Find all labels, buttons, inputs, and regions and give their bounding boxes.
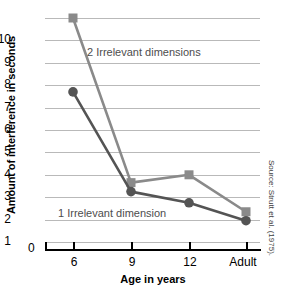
interference-line-chart: Amount of interference in seconds 1 2 3 …: [0, 0, 286, 295]
x-axis-title: Age in years: [45, 273, 261, 285]
gridline-10: [45, 18, 260, 19]
series-label-one-irrelevant-dimension: 1 Irrelevant dimension: [58, 207, 166, 219]
x-tick-label-3: Adult: [229, 255, 256, 269]
y-tick-label-6: 6: [0, 122, 11, 136]
gridline-5: [45, 130, 260, 131]
source-credit-text: Source: Strutt et al. (1975).: [267, 160, 276, 256]
x-tick-label-0: 6: [71, 255, 78, 269]
y-tick-label-2: 2: [0, 212, 11, 226]
y-tick-label-1: 1: [0, 234, 11, 248]
gridline-6: [45, 108, 260, 109]
y-tick-label-9: 9: [0, 55, 11, 69]
gridline-2: [45, 197, 260, 198]
gridline-8: [45, 63, 260, 64]
gridline-7: [45, 85, 260, 86]
x-tick-3: [246, 242, 248, 251]
y-tick-label-0: 0: [28, 241, 35, 255]
x-tick-0: [73, 242, 75, 251]
x-tick-label-1: 9: [129, 255, 136, 269]
series-label-two-irrelevant-dimensions: 2 Irrelevant dimensions: [87, 46, 201, 58]
y-tick-label-7: 7: [0, 100, 11, 114]
gridline-3: [45, 175, 260, 176]
x-axis-origin-tick: [45, 242, 47, 251]
source-credit: Source: Strutt et al. (1975).: [262, 160, 280, 280]
y-tick-label-10: 10: [0, 32, 11, 46]
x-tick-1: [131, 242, 133, 251]
x-tick-2: [189, 242, 191, 251]
gridline-0: [45, 242, 260, 243]
x-tick-label-2: 12: [183, 255, 196, 269]
y-tick-label-5: 5: [0, 144, 11, 158]
gridline-1: [45, 220, 260, 221]
x-axis-line: [45, 249, 261, 251]
gridline-9: [45, 40, 260, 41]
y-tick-label-4: 4: [0, 167, 11, 181]
y-tick-label-3: 3: [0, 189, 11, 203]
y-tick-label-8: 8: [0, 77, 11, 91]
gridline-4: [45, 152, 260, 153]
